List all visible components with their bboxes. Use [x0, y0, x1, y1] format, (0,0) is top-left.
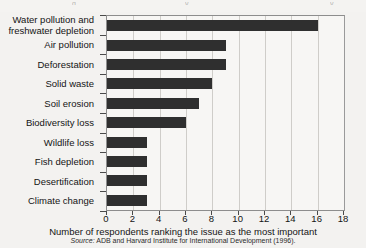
bar [107, 20, 318, 31]
bar [107, 78, 212, 89]
x-axis-title: Number of respondents ranking the issue … [0, 226, 366, 237]
plot-area [106, 15, 345, 211]
y-axis-label: Deforestation [0, 55, 98, 74]
bar [107, 98, 199, 109]
y-axis-label: Desertification [0, 172, 98, 191]
y-axis-label: Water pollution and freshwater depletion [0, 15, 98, 36]
x-axis-tick-label: 2 [130, 213, 135, 225]
bar-row [107, 113, 344, 132]
bar-row [107, 171, 344, 190]
source-text: ADB and Harvard Institute for Internatio… [96, 237, 295, 244]
bar [107, 40, 226, 51]
bar [107, 137, 147, 148]
y-axis-label: Air pollution [0, 36, 98, 55]
source-note: Source: ADB and Harvard Institute for In… [0, 237, 366, 244]
bar [107, 156, 147, 167]
x-axis-tick-label: 16 [311, 213, 322, 225]
bar-row [107, 132, 344, 151]
bar-row [107, 152, 344, 171]
figure-container: g y y Water pollution and freshwater dep… [0, 0, 366, 248]
bar-row [107, 35, 344, 54]
x-axis-tick-label: 10 [232, 213, 243, 225]
bar-row [107, 74, 344, 93]
x-axis-tick-label: 12 [259, 213, 270, 225]
bar [107, 195, 147, 206]
y-axis-labels: Water pollution and freshwater depletion… [0, 15, 98, 211]
y-axis-label: Climate change [0, 192, 98, 211]
y-axis-label: Biodiversity loss [0, 114, 98, 133]
bar-row [107, 94, 344, 113]
x-axis-tick-label: 18 [338, 213, 349, 225]
bar-rows [107, 16, 344, 210]
x-axis-tick-label: 4 [156, 213, 161, 225]
x-axis-tick-labels: 024681012141618 [106, 213, 345, 225]
bar-row [107, 55, 344, 74]
y-axis-label: Wildlife loss [0, 133, 98, 152]
bar [107, 175, 147, 186]
x-axis-tick-label: 6 [182, 213, 187, 225]
bar [107, 59, 226, 70]
y-axis-label: Fish depletion [0, 153, 98, 172]
bar-row [107, 191, 344, 210]
x-axis-tick-label: 8 [209, 213, 214, 225]
scan-artifact-strip: g y y [0, 0, 366, 12]
bar [107, 117, 186, 128]
y-axis-label: Solid waste [0, 75, 98, 94]
bar-row [107, 16, 344, 35]
y-axis-label: Soil erosion [0, 94, 98, 113]
x-axis-tick-label: 14 [285, 213, 296, 225]
x-axis-tick-label: 0 [103, 213, 108, 225]
source-label: Source: [71, 237, 95, 244]
